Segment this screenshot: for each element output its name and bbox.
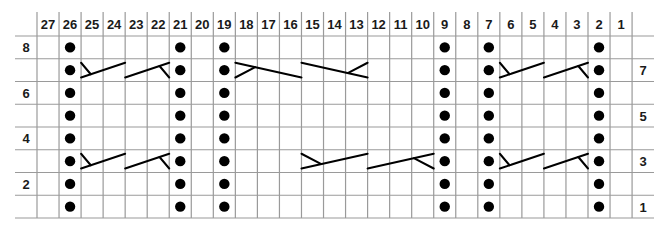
purl-dot-icon: [219, 133, 229, 143]
purl-dot-icon: [594, 65, 604, 75]
column-header: 1: [617, 17, 624, 32]
purl-dot-icon: [484, 88, 494, 98]
purl-dot-icon: [65, 156, 75, 166]
cable-symbols: [81, 63, 588, 169]
purl-dot-icon: [175, 156, 185, 166]
column-header: 12: [371, 17, 385, 32]
purl-dot-icon: [594, 179, 604, 189]
column-header: 10: [415, 17, 429, 32]
column-header: 13: [349, 17, 363, 32]
row-label-left: 8: [22, 40, 29, 55]
column-headers: 2726252423222120191817161514131211109876…: [41, 17, 625, 32]
cable-symbol-icon: [368, 154, 434, 169]
column-header: 24: [107, 17, 122, 32]
purl-dot-icon: [594, 110, 604, 120]
purl-dot-icon: [440, 42, 450, 52]
column-header: 19: [217, 17, 231, 32]
purl-dot-icon: [175, 133, 185, 143]
purl-dot-icon: [65, 133, 75, 143]
purl-dot-icon: [175, 179, 185, 189]
purl-dot-icon: [65, 110, 75, 120]
column-header: 5: [529, 17, 536, 32]
purl-dot-icon: [65, 179, 75, 189]
purl-dot-icon: [440, 110, 450, 120]
row-label-left: 4: [22, 131, 30, 146]
purl-dot-icon: [484, 133, 494, 143]
column-header: 20: [195, 17, 209, 32]
purl-dot-icon: [440, 65, 450, 75]
column-header: 21: [173, 17, 187, 32]
column-header: 23: [129, 17, 143, 32]
purl-dot-icon: [594, 133, 604, 143]
purl-dot-icon: [594, 42, 604, 52]
purl-dot-icon: [484, 179, 494, 189]
purl-dot-icon: [484, 42, 494, 52]
purl-dot-icon: [484, 156, 494, 166]
column-header: 25: [85, 17, 99, 32]
knitting-chart: 2726252423222120191817161514131211109876…: [0, 0, 668, 230]
purl-dot-icon: [219, 42, 229, 52]
column-header: 8: [463, 17, 470, 32]
purl-dot-icon: [440, 156, 450, 166]
purl-dot-icon: [175, 110, 185, 120]
purl-dot-icon: [65, 201, 75, 211]
cable-symbol-icon: [235, 63, 301, 78]
column-header: 4: [551, 17, 559, 32]
purl-dot-icon: [484, 110, 494, 120]
column-header: 26: [63, 17, 77, 32]
row-label-right: 3: [639, 154, 646, 169]
row-label-right: 1: [639, 200, 646, 215]
column-header: 6: [507, 17, 514, 32]
row-label-left: 6: [22, 86, 29, 101]
column-header: 7: [485, 17, 492, 32]
purl-dot-icon: [65, 65, 75, 75]
purl-dot-icon: [219, 110, 229, 120]
purl-dot-icon: [175, 88, 185, 98]
column-header: 11: [394, 17, 408, 32]
purl-dot-icon: [440, 201, 450, 211]
column-header: 27: [41, 17, 55, 32]
purl-dot-icon: [175, 65, 185, 75]
chart-grid: [15, 12, 654, 218]
column-header: 16: [283, 17, 297, 32]
purl-dot-icon: [65, 88, 75, 98]
column-header: 17: [261, 17, 275, 32]
column-header: 22: [151, 17, 165, 32]
purl-dot-icon: [175, 42, 185, 52]
row-label-right: 5: [639, 109, 646, 124]
purl-dot-icon: [594, 156, 604, 166]
column-header: 14: [327, 17, 342, 32]
column-header: 3: [573, 17, 580, 32]
purl-dot-icon: [484, 65, 494, 75]
cable-symbol-icon: [301, 63, 367, 78]
row-label-left: 2: [22, 177, 29, 192]
column-header: 18: [239, 17, 253, 32]
purl-dot-icon: [219, 88, 229, 98]
column-header: 2: [595, 17, 602, 32]
purl-dot-icon: [440, 88, 450, 98]
column-header: 15: [305, 17, 319, 32]
purl-dot-icon: [594, 88, 604, 98]
purl-dot-icon: [219, 65, 229, 75]
purl-dot-icon: [484, 201, 494, 211]
purl-dot-icon: [219, 179, 229, 189]
row-label-right: 7: [639, 63, 646, 78]
purl-dot-icon: [65, 42, 75, 52]
purl-dot-icon: [594, 201, 604, 211]
purl-dot-icon: [219, 156, 229, 166]
column-header: 9: [441, 17, 448, 32]
purl-dot-icon: [175, 201, 185, 211]
cable-symbol-icon: [301, 154, 367, 169]
purl-dot-icon: [440, 133, 450, 143]
purl-dot-icon: [440, 179, 450, 189]
purl-dot-icon: [219, 201, 229, 211]
